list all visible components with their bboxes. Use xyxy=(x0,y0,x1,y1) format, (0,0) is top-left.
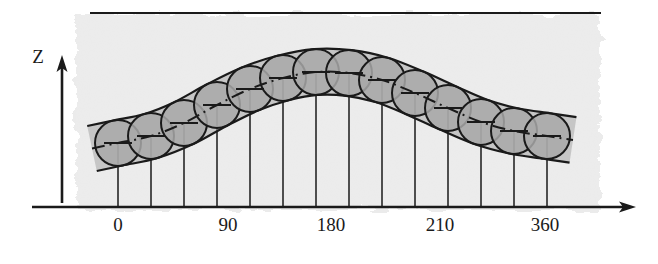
z-axis-label: Z xyxy=(32,46,44,67)
x-tick-label: 210 xyxy=(426,214,455,235)
z-axis: Z xyxy=(32,46,67,203)
x-tick-label: 180 xyxy=(317,214,346,235)
figure-root: Z 090180210360 xyxy=(0,0,658,264)
sphere-tube-diagram: Z 090180210360 xyxy=(0,0,658,264)
x-tick-label: 360 xyxy=(531,214,560,235)
x-tick-label: 0 xyxy=(113,214,123,235)
x-tick-label-group: 090180210360 xyxy=(113,214,559,235)
x-tick-label: 90 xyxy=(219,214,238,235)
